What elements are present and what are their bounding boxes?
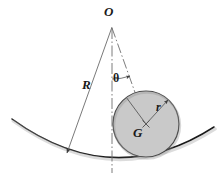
label-G: G	[133, 126, 142, 139]
label-R: R	[82, 78, 91, 91]
label-theta: θ	[113, 72, 119, 84]
label-r: r	[156, 101, 161, 113]
label-O: O	[104, 5, 113, 18]
mechanics-diagram: O R θ r G	[0, 0, 222, 174]
diagram-canvas	[0, 0, 222, 174]
